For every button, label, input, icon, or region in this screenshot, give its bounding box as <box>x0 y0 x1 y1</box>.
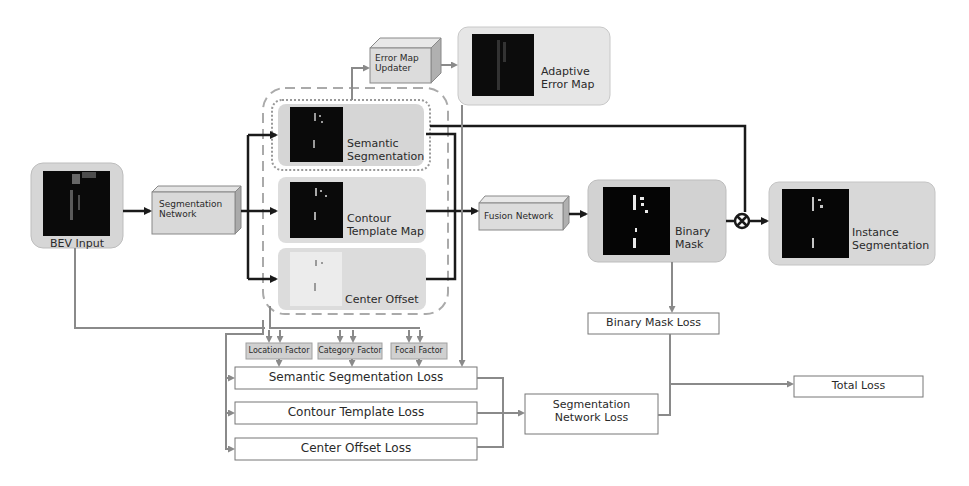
center-offset-label: Center Offset <box>345 294 425 307</box>
center-offset-loss-label: Center Offset Loss <box>235 442 477 456</box>
architecture-diagram: BEV Input Segmentation Network Error Map… <box>0 0 969 486</box>
binary-mask-loss-label: Binary Mask Loss <box>588 317 719 330</box>
diagram-graphics <box>0 0 969 486</box>
focal-factor-label: Focal Factor <box>391 346 447 355</box>
total-loss-label: Total Loss <box>794 380 923 393</box>
contour-template-loss-label: Contour Template Loss <box>235 406 477 420</box>
error-map-updater-label: Error Map Updater <box>375 53 429 74</box>
segmentation-network-loss-label: Segmentation Network Loss <box>535 399 648 424</box>
instance-segmentation-label: Instance Segmentation <box>852 227 934 252</box>
category-factor-label: Category Factor <box>318 346 382 355</box>
bev-input-panel <box>31 163 123 248</box>
semantic-segmentation-loss-label: Semantic Segmentation Loss <box>235 371 477 385</box>
semantic-segmentation-label: Semantic Segmentation <box>347 138 427 163</box>
bev-input-label: BEV Input <box>31 238 123 251</box>
fusion-network-label: Fusion Network <box>484 211 564 221</box>
segmentation-network-label: Segmentation Network <box>159 199 229 220</box>
binary-mask-label: Binary Mask <box>675 226 715 251</box>
contour-template-map-label: Contour Template Map <box>347 213 425 238</box>
adaptive-error-map-label: Adaptive Error Map <box>541 66 607 91</box>
location-factor-label: Location Factor <box>246 346 312 355</box>
